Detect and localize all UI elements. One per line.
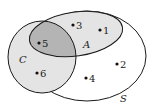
element-label: 3	[76, 20, 82, 31]
dot-icon	[71, 23, 74, 26]
element-label: 5	[42, 38, 48, 49]
element-label: 6	[40, 68, 46, 79]
set-c-label: C	[19, 54, 27, 65]
dot-icon	[37, 41, 40, 44]
dot-icon	[35, 71, 38, 74]
venn-diagram: 3 1 5 2 6 4 A C S	[0, 0, 151, 108]
element-label: 4	[89, 73, 95, 84]
set-a-label: A	[82, 39, 90, 50]
set-s-label: S	[120, 93, 127, 104]
dot-icon	[84, 76, 87, 79]
element-label: 1	[103, 25, 109, 36]
dot-icon	[115, 62, 118, 65]
element-label: 2	[120, 59, 126, 70]
dot-icon	[98, 28, 101, 31]
